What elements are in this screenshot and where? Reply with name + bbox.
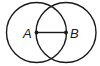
point-b [64,31,68,35]
label-b: B [70,26,79,41]
label-a: A [22,26,32,41]
point-a [35,31,39,35]
geometry-diagram: A B [0,0,100,66]
